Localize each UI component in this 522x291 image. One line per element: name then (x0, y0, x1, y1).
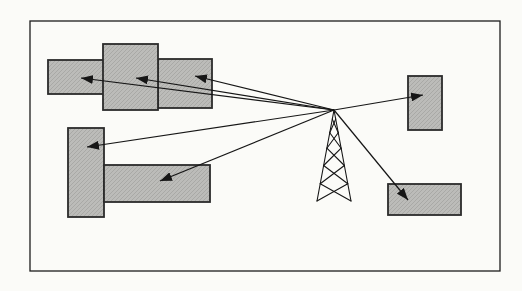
tower-strut (334, 110, 351, 201)
signal-to-top-left-right (195, 76, 334, 110)
signal-to-bottom-right (334, 110, 408, 200)
building-top-left-right (158, 59, 212, 108)
building-top-left-middle (103, 44, 158, 110)
figure-canvas (0, 0, 522, 291)
building-right-small (408, 76, 442, 130)
building-mid-left-vertical (68, 128, 104, 217)
tower-strut (320, 166, 344, 184)
tower-strut (324, 166, 348, 184)
broadcast-diagram-svg (0, 0, 522, 291)
tower-strut (317, 110, 334, 201)
tower-strut (320, 184, 351, 201)
tower-strut (317, 184, 348, 201)
building-mid-left-horizontal (104, 165, 210, 202)
building-top-left-left (48, 60, 104, 94)
signal-to-mid-left-vertical (87, 110, 334, 147)
signal-to-mid-left-horizontal (160, 110, 334, 181)
